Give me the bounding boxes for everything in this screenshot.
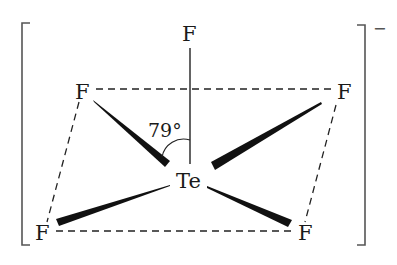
wedge-bond-lower-right [207,186,292,227]
atom-f-upper-right: F [337,80,352,104]
atom-f-upper-left: F [75,80,90,104]
wedge-bond-upper-right [211,102,322,170]
angle-arc [162,139,190,157]
atom-te-central: Te [176,169,201,193]
dashed-edge-right [305,105,336,222]
atom-f-lower-left: F [35,221,50,245]
tef5-structure-diagram: − 79° F F F F F Te [0,0,397,265]
dashed-edge-left [47,102,79,222]
right-bracket [357,25,365,245]
charge-sign: − [373,19,386,38]
wedge-bond-lower-left [56,185,170,226]
angle-label: 79° [148,119,182,141]
atom-f-lower-right: F [298,221,313,245]
atom-f-apical: F [182,22,197,46]
left-bracket [22,23,30,245]
